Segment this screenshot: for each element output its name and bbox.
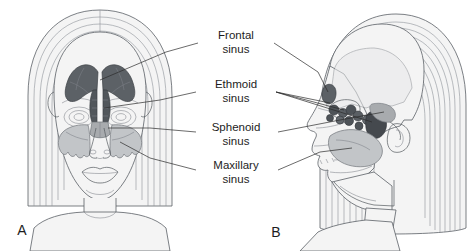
- label-sphenoid-sinus-line1: Sphenoid: [212, 121, 261, 133]
- leader-frontal-right: [274, 43, 328, 92]
- label-maxillary-sinus: Maxillary sinus: [213, 159, 259, 185]
- sphenoid-sinus-shape-anterior: [90, 122, 110, 138]
- panel-b-lateral-view: B: [271, 14, 466, 251]
- label-frontal-sinus-line1: Frontal: [218, 29, 254, 41]
- panel-a-anterior-view: A: [17, 10, 172, 251]
- label-frontal-sinus: Frontal sinus: [218, 29, 254, 55]
- label-frontal-sinus-line2: sinus: [223, 43, 250, 55]
- label-ethmoid-sinus-line2: sinus: [223, 92, 250, 104]
- panel-label-b: B: [271, 224, 280, 240]
- panel-label-a: A: [17, 222, 27, 238]
- anatomy-illustration: A: [0, 0, 473, 251]
- label-sphenoid-sinus-line2: sinus: [223, 135, 250, 147]
- label-ethmoid-sinus: Ethmoid sinus: [215, 78, 257, 104]
- sinus-anatomy-figure: A: [0, 0, 473, 251]
- frontal-sinus-shape-lateral: [322, 84, 336, 103]
- label-maxillary-sinus-line1: Maxillary: [213, 159, 259, 171]
- label-maxillary-sinus-line2: sinus: [223, 173, 250, 185]
- label-ethmoid-sinus-line1: Ethmoid: [215, 78, 257, 90]
- label-sphenoid-sinus: Sphenoid sinus: [212, 121, 261, 147]
